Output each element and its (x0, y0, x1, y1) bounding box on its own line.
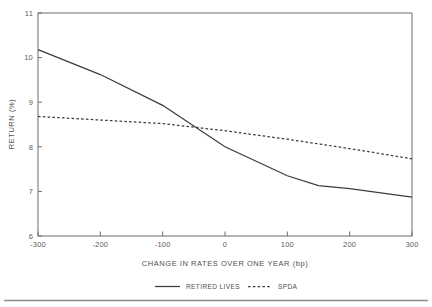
x-tick-label: -100 (155, 240, 171, 249)
chart-figure: 11 10 9 8 7 6 -300 -200 -100 0 100 200 3… (0, 0, 432, 307)
line-chart: 11 10 9 8 7 6 -300 -200 -100 0 100 200 3… (0, 0, 432, 307)
series-line-spda (38, 116, 412, 158)
plot-frame (38, 13, 412, 236)
y-tick-label: 7 (29, 187, 33, 196)
x-axis-ticks (38, 232, 412, 237)
x-tick-label: 0 (223, 240, 227, 249)
y-tick-label: 11 (25, 9, 33, 18)
chart-legend: RETIRED LIVES SPDA (155, 283, 298, 290)
y-tick-label: 9 (29, 98, 33, 107)
y-axis-ticks (38, 13, 42, 236)
y-axis-title: RETURN (%) (7, 99, 16, 150)
x-tick-label: 100 (281, 240, 294, 249)
y-tick-label: 10 (24, 53, 33, 62)
y-tick-label: 8 (29, 143, 33, 152)
x-tick-label: 300 (405, 240, 418, 249)
x-tick-label: -300 (30, 240, 46, 249)
y-axis-tick-labels: 11 10 9 8 7 6 (24, 9, 33, 241)
x-tick-label: 200 (343, 240, 356, 249)
series-line-retired-lives (38, 50, 412, 198)
legend-label-retired-lives: RETIRED LIVES (186, 283, 240, 290)
x-axis-title: CHANGE IN RATES OVER ONE YEAR (bp) (142, 259, 308, 268)
legend-label-spda: SPDA (278, 283, 298, 290)
x-axis-tick-labels: -300 -200 -100 0 100 200 300 (30, 240, 418, 249)
x-tick-label: -200 (92, 240, 108, 249)
